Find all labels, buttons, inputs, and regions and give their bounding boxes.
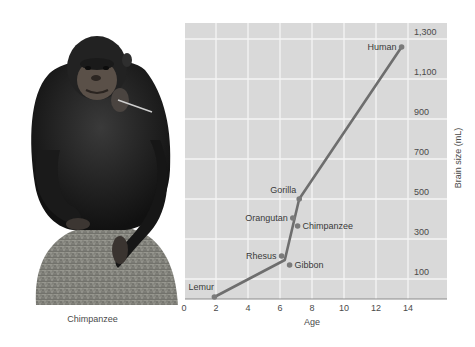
y-tick-label: 300 xyxy=(414,227,429,237)
x-tick-label: 4 xyxy=(245,303,250,313)
point-marker xyxy=(296,196,302,202)
brain-size-vs-age-chart: 02468101214 1003005007009001,1001,300 Ag… xyxy=(0,0,475,347)
point-label: Chimpanzee xyxy=(303,221,354,231)
point-marker xyxy=(399,44,405,50)
point-label: Gorilla xyxy=(270,185,296,195)
point-marker xyxy=(279,253,285,259)
x-tick-label: 0 xyxy=(181,303,186,313)
point-marker xyxy=(287,262,293,268)
point-label: Gibbon xyxy=(295,260,324,270)
y-tick-label: 500 xyxy=(414,187,429,197)
point-marker xyxy=(295,223,301,229)
x-tick-label: 10 xyxy=(339,303,349,313)
point-label: Lemur xyxy=(188,282,214,292)
y-tick-label: 900 xyxy=(414,107,429,117)
y-axis-label: Brain size (mL) xyxy=(453,128,463,189)
point-label: Human xyxy=(368,42,397,52)
point-marker xyxy=(290,215,296,221)
y-tick-label: 700 xyxy=(414,147,429,157)
point-marker xyxy=(212,294,218,300)
x-axis-label: Age xyxy=(304,317,320,327)
data-point-chimpanzee: Chimpanzee xyxy=(295,221,353,231)
x-tick-label: 8 xyxy=(309,303,314,313)
y-tick-label: 1,300 xyxy=(414,27,437,37)
x-tick-label: 12 xyxy=(371,303,381,313)
x-tick-label: 14 xyxy=(403,303,413,313)
y-tick-label: 1,100 xyxy=(414,67,437,77)
x-tick-label: 6 xyxy=(277,303,282,313)
x-tick-labels: 02468101214 xyxy=(181,303,413,313)
x-tick-label: 2 xyxy=(213,303,218,313)
point-label: Orangutan xyxy=(245,213,288,223)
y-tick-label: 100 xyxy=(414,267,429,277)
point-label: Rhesus xyxy=(246,251,277,261)
